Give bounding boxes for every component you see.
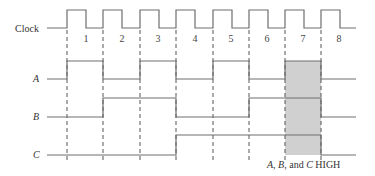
pulse-number: 3 [156,33,161,44]
highlight-region [285,61,321,155]
clock-waveform [47,10,356,28]
b-label: B [33,111,39,122]
c-label: C [33,149,40,160]
pulse-number: 1 [84,33,89,44]
highlight-label: A, B, and C HIGH [266,159,340,170]
timing-diagram: Clock A B C 1 2 3 4 5 6 7 8 A, B, and C … [0,0,375,176]
pulse-number: 7 [301,33,306,44]
pulse-number: 6 [265,33,270,44]
pulse-number: 8 [337,33,342,44]
clock-label: Clock [15,23,39,34]
pulse-number: 2 [120,33,125,44]
pulse-number: 4 [193,33,198,44]
pulse-number: 5 [229,33,234,44]
clock-edge-markers [67,30,321,160]
a-label: A [32,73,40,84]
